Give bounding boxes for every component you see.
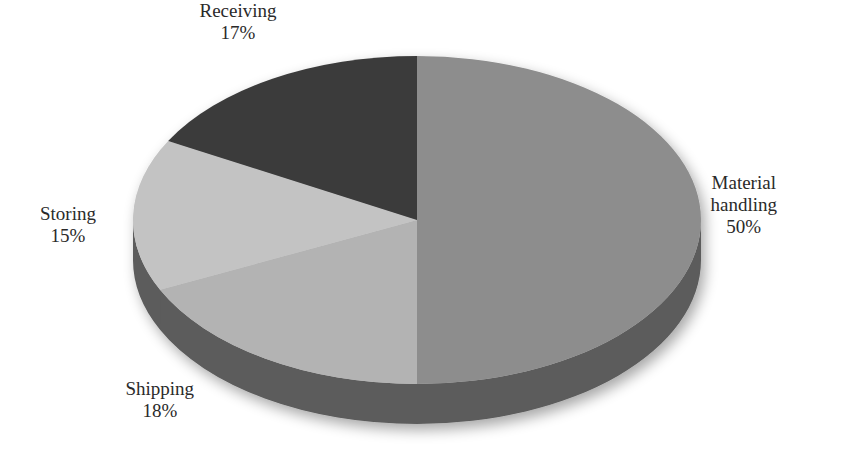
pie-chart: Material handling 50% Shipping 18% Stori… xyxy=(0,0,844,472)
label-storing: Storing 15% xyxy=(40,203,96,247)
label-receiving: Receiving 17% xyxy=(200,0,277,44)
pie-top-face xyxy=(133,56,701,384)
label-material-handling: Material handling 50% xyxy=(711,172,778,238)
label-shipping: Shipping 18% xyxy=(126,378,195,422)
